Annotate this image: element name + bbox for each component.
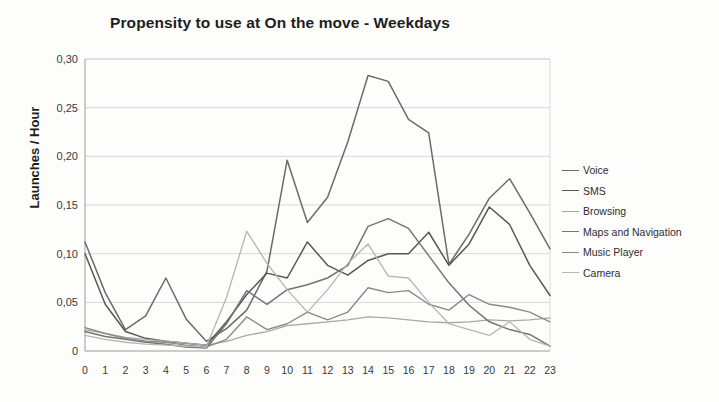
legend-item-label: Voice [583,164,609,176]
x-tick-label: 11 [302,364,313,376]
chart-container: Propensity to use at On the move - Weekd… [0,0,719,402]
x-tick-label: 6 [203,364,209,376]
series-line [85,219,550,348]
legend-swatch-icon [562,211,579,212]
x-tick-label: 20 [484,364,496,376]
legend-swatch-icon [562,190,579,191]
legend-swatch-icon [562,231,579,232]
series-line [85,231,550,347]
x-tick-label: 8 [244,364,250,376]
legend-item-label: Camera [583,267,620,279]
legend-item[interactable]: Music Player [562,242,717,263]
series-lines [85,76,550,349]
x-tick-label: 15 [382,364,394,376]
legend-item-label: Maps and Navigation [583,226,682,238]
x-tick-label: 16 [403,364,415,376]
legend-item[interactable]: Maps and Navigation [562,222,717,243]
chart-legend: VoiceSMSBrowsingMaps and NavigationMusic… [562,160,717,283]
legend-item-label: Browsing [583,205,626,217]
x-tick-label: 21 [504,364,516,376]
x-tick-label: 0 [82,364,88,376]
legend-swatch-icon [562,272,579,273]
series-line [85,207,550,345]
x-tick-label: 3 [143,364,149,376]
x-tick-label: 7 [224,364,230,376]
x-tick-label: 4 [163,364,169,376]
x-tick-label: 1 [102,364,108,376]
x-tick-label: 13 [342,364,354,376]
series-line [85,317,550,345]
grid-lines [85,59,550,302]
x-tick-label: 19 [463,364,475,376]
legend-item-label: Music Player [583,246,643,258]
x-tick-label: 14 [362,364,374,376]
legend-item-label: SMS [583,185,606,197]
legend-item[interactable]: Camera [562,263,717,284]
legend-item[interactable]: Voice [562,160,717,181]
x-tick-label: 2 [123,364,129,376]
x-tick-label: 17 [423,364,435,376]
legend-swatch-icon [562,170,579,171]
series-line [85,288,550,347]
x-tick-label: 22 [524,364,536,376]
legend-swatch-icon [562,252,579,253]
x-tick-label: 10 [281,364,293,376]
x-tick-label: 18 [443,364,455,376]
x-tick-label: 23 [544,364,556,376]
legend-item[interactable]: Browsing [562,201,717,222]
x-tick-label: 9 [264,364,270,376]
legend-item[interactable]: SMS [562,181,717,202]
x-tick-label: 5 [183,364,189,376]
x-tick-label: 12 [322,364,334,376]
